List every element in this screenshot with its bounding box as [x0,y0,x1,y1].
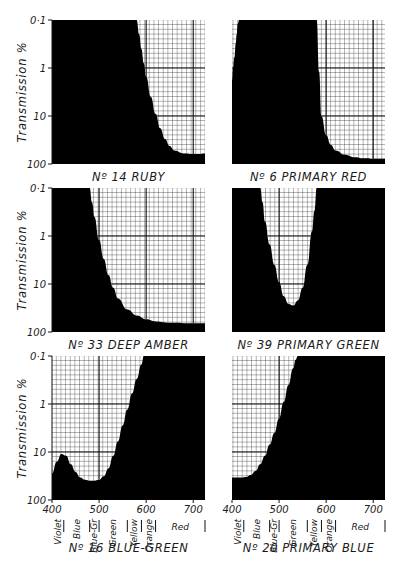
y-tick-label: 10 [33,447,46,458]
x-tick-label: 400 [222,504,241,515]
panel-caption: Nº 16 BLUE-GREEN [69,541,189,555]
y-tick-label: 1 [40,231,46,242]
y-tick-label: 0·1 [30,351,46,362]
chart-panel-5: 0·1110100Transmission %400500600700Viole… [15,351,205,556]
y-tick-label: 10 [33,279,46,290]
x-axis: 400500600700 [222,500,382,515]
panel-caption: Nº 6 PRIMARY RED [250,170,367,184]
band-label: Red [172,522,190,532]
y-axis: 0·1110100Transmission % [15,183,52,338]
x-tick-label: 500 [270,504,289,515]
panel-caption: Nº 33 DEEP AMBER [68,338,188,352]
y-tick-label: 0·1 [30,183,46,194]
x-tick-label: 400 [42,504,61,515]
y-axis: 0·1110100Transmission % [15,15,52,170]
chart-panel-2: Nº 6 PRIMARY RED [232,20,385,184]
chart-panel-3: 0·1110100Transmission %Nº 33 DEEP AMBER [15,183,205,353]
y-tick-label: 10 [33,111,46,122]
y-tick-label: 100 [27,327,46,338]
x-tick-label: 700 [184,504,203,515]
x-tick-label: 600 [137,504,156,515]
band-label: Red [352,522,370,532]
band-label: Violet [233,519,243,545]
chart-panel-4: Nº 39 PRIMARY GREEN [232,188,385,352]
x-axis: 400500600700 [42,500,202,515]
x-tick-label: 700 [364,504,383,515]
y-tick-label: 0·1 [30,15,46,26]
y-axis: 0·1110100Transmission % [15,351,52,506]
x-tick-label: 600 [317,504,336,515]
band-label: Blue [252,519,262,539]
y-axis-title: Transmission % [15,210,29,311]
chart-panel-1: 0·1110100Transmission %Nº 14 RUBY [15,15,205,185]
y-tick-label: 1 [40,63,46,74]
panel-caption: Nº 20 PRIMARY BLUE [243,541,375,555]
y-tick-label: 100 [27,159,46,170]
x-tick-label: 500 [90,504,109,515]
y-axis-title: Transmission % [15,42,29,143]
y-axis-title: Transmission % [15,378,29,479]
chart-panel-6: 400500600700VioletBlueBlue-GrGreenYellow… [222,356,385,555]
band-label: Blue [72,519,82,539]
panel-caption: Nº 39 PRIMARY GREEN [237,338,379,352]
band-label: Violet [53,519,63,545]
panel-caption: Nº 14 RUBY [92,170,165,184]
filter-transmission-figure: 0·1110100Transmission %Nº 14 RUBYNº 6 PR… [0,0,398,574]
y-tick-label: 1 [40,399,46,410]
